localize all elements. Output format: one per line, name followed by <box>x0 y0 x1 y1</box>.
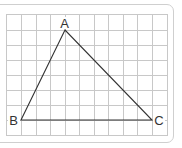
vertex-label-b: B <box>9 113 18 128</box>
vertex-label-c: C <box>154 113 163 128</box>
grid <box>7 15 168 136</box>
vertex-label-a: A <box>60 16 69 31</box>
triangle-grid-figure: A B C <box>0 0 182 148</box>
